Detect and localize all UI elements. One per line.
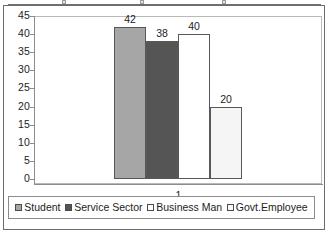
bar-service-sector — [146, 41, 178, 179]
bar-student — [114, 27, 146, 179]
clipped-legend-marker — [62, 0, 66, 4]
legend-item-label: Service Sector — [74, 202, 142, 213]
clipped-legend-marker — [140, 0, 144, 4]
bar-chart: 454035302520151050 42384020 1 StudentSer… — [0, 0, 329, 234]
legend-item[interactable]: Service Sector — [65, 202, 142, 213]
bar-business-man — [178, 34, 210, 179]
legend-swatch-icon — [15, 204, 22, 211]
legend-item-label: Student — [24, 202, 60, 213]
bar-value-label: 42 — [110, 14, 150, 25]
clipped-legend-marker — [222, 0, 226, 4]
legend-item[interactable]: Student — [15, 202, 60, 213]
legend-item[interactable]: Business Man — [147, 202, 222, 213]
legend-item-label: Business Man — [156, 202, 222, 213]
chart-legend: StudentService SectorBusiness ManGovt.Em… — [8, 196, 315, 219]
legend-swatch-icon — [147, 204, 154, 211]
legend-item-label: Govt.Employee — [236, 202, 308, 213]
legend-swatch-icon — [65, 204, 72, 211]
bar-value-label: 20 — [206, 94, 246, 105]
bar-govt-employee — [210, 107, 242, 179]
legend-swatch-icon — [227, 204, 234, 211]
legend-item[interactable]: Govt.Employee — [227, 202, 308, 213]
bar-value-label: 40 — [174, 21, 214, 32]
